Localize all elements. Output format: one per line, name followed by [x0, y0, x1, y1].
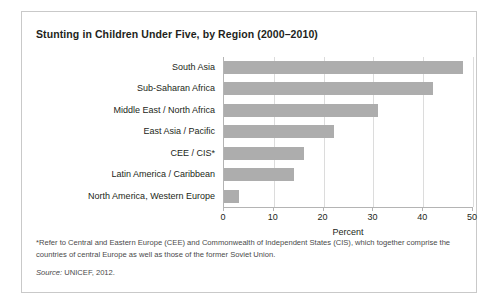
category-label: Sub-Saharan Africa	[137, 78, 215, 99]
bar-row	[224, 78, 473, 99]
category-axis: South AsiaSub-Saharan AfricaMiddle East …	[22, 57, 220, 207]
bar-row	[224, 57, 473, 78]
bar	[224, 147, 304, 160]
figure-panel: Stunting in Children Under Five, by Regi…	[21, 11, 477, 293]
x-tick-label: 40	[417, 212, 427, 222]
figure-notes: *Refer to Central and Eastern Europe (CE…	[36, 237, 464, 277]
bar	[224, 104, 378, 117]
chart-title: Stunting in Children Under Five, by Regi…	[36, 28, 318, 40]
bar-row	[224, 143, 473, 164]
category-label: Middle East / North Africa	[113, 100, 215, 121]
source-label: Source:	[36, 268, 62, 277]
x-tick	[472, 207, 473, 211]
category-label: CEE / CIS*	[170, 143, 215, 164]
category-label: East Asia / Pacific	[143, 121, 215, 142]
bar-row	[224, 121, 473, 142]
x-tick	[422, 207, 423, 211]
chart-plot: South AsiaSub-Saharan AfricaMiddle East …	[22, 57, 478, 222]
x-tick	[273, 207, 274, 211]
category-label: Latin America / Caribbean	[111, 164, 215, 185]
x-axis-line	[223, 207, 473, 208]
x-axis-title: Percent	[223, 227, 473, 237]
footnote-text: *Refer to Central and Eastern Europe (CE…	[36, 237, 464, 260]
source-line: Source: UNICEF, 2012.	[36, 268, 464, 277]
x-tick	[223, 207, 224, 211]
bar-row	[224, 100, 473, 121]
source-text: UNICEF, 2012.	[62, 268, 115, 277]
bar	[224, 125, 334, 138]
bar	[224, 190, 239, 203]
x-tick	[323, 207, 324, 211]
x-tick	[372, 207, 373, 211]
bar	[224, 61, 463, 74]
x-tick-label: 20	[318, 212, 328, 222]
x-tick-label: 50	[467, 212, 477, 222]
bar-row	[224, 186, 473, 207]
plot-area	[223, 57, 473, 207]
bar-row	[224, 164, 473, 185]
x-tick-label: 30	[367, 212, 377, 222]
x-tick-label: 0	[220, 212, 225, 222]
gridline	[473, 57, 474, 207]
category-label: North America, Western Europe	[88, 186, 215, 207]
bar	[224, 168, 294, 181]
category-label: South Asia	[172, 57, 215, 78]
x-tick-label: 10	[268, 212, 278, 222]
bar	[224, 82, 433, 95]
